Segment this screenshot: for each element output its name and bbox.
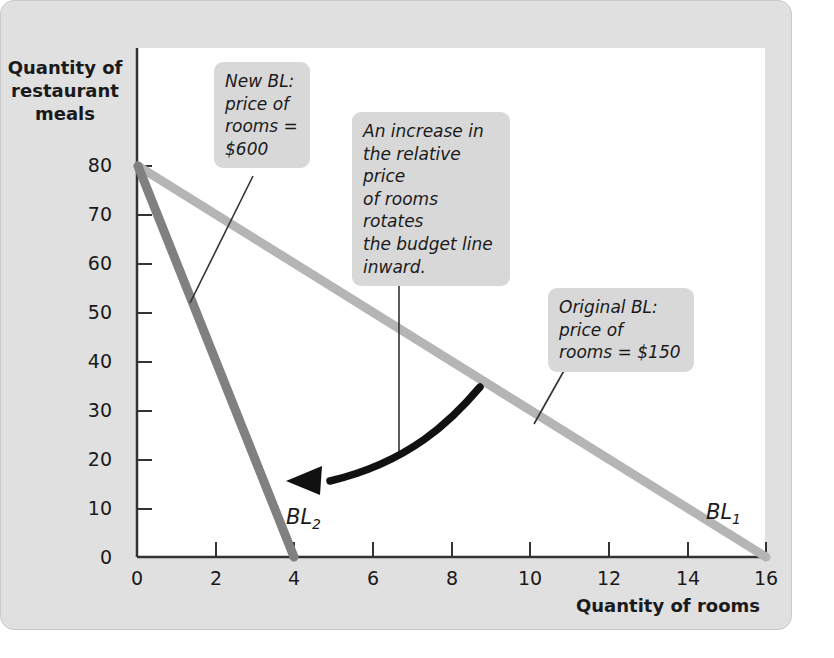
callout-rotation-line-5: inward. <box>363 256 499 279</box>
leader-line-new-bl <box>190 176 253 303</box>
callout-original-bl: Original BL: price of rooms = $150 <box>548 288 694 372</box>
callout-new-bl-line-3: rooms = <box>225 115 299 138</box>
callout-rotation-line-2: the relative price <box>363 143 499 188</box>
figure-container: Quantity of restaurant meals Quantity of… <box>0 0 834 658</box>
callout-rotation: An increase in the relative price of roo… <box>352 112 510 286</box>
budget-line-bl2 <box>138 166 294 557</box>
callout-new-bl-line-1: New BL: <box>225 70 299 93</box>
chart-vector-layer <box>0 0 834 658</box>
callout-rotation-line-3: of rooms rotates <box>363 188 499 233</box>
callout-rotation-line-4: the budget line <box>363 233 499 256</box>
rotation-arrow-head <box>286 466 322 495</box>
curve-label-bl1: BL1 <box>706 500 741 527</box>
curve-label-bl2: BL2 <box>286 505 321 532</box>
callout-original-bl-line-3: rooms = $150 <box>559 341 683 364</box>
curve-label-bl1-base: BL <box>706 500 732 524</box>
callout-rotation-line-1: An increase in <box>363 120 499 143</box>
callout-new-bl-line-4: $600 <box>225 138 299 161</box>
y-axis-ticks <box>137 166 152 509</box>
callout-new-bl-line-2: price of <box>225 93 299 116</box>
rotation-arrow-shaft <box>330 387 480 481</box>
callout-original-bl-line-2: price of <box>559 319 683 342</box>
x-axis-ticks <box>216 542 766 557</box>
curve-label-bl2-sub: 2 <box>312 516 321 532</box>
curve-label-bl2-base: BL <box>286 505 312 529</box>
callout-new-bl: New BL: price of rooms = $600 <box>214 62 310 168</box>
callout-original-bl-line-1: Original BL: <box>559 296 683 319</box>
curve-label-bl1-sub: 1 <box>732 511 741 527</box>
